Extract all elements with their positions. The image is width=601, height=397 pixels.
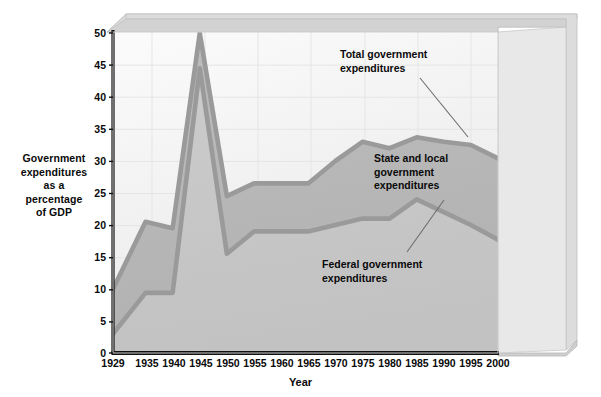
y-tick-label-50: 50 [80,27,106,39]
y-tick-label-45: 45 [80,59,106,71]
y-tick-label-20: 20 [80,219,106,231]
x-axis-title: Year [0,376,601,388]
y-tick-label-30: 30 [80,155,106,167]
y-tick-label-25: 25 [80,187,106,199]
y-axis-title-line-5: of GDP [2,206,106,220]
x-tick-label-2000: 2000 [481,357,515,369]
y-axis-title-line-2: expenditures [2,166,106,180]
x-tick-label-1929: 1929 [96,357,130,369]
y-tick-label-5: 5 [80,315,106,327]
y-tick-label-10: 10 [80,283,106,295]
annotation-federal-government: Federal government expenditures [322,258,422,285]
annotation-total-government: Total government expenditures [340,48,427,75]
y-tick-label-40: 40 [80,91,106,103]
y-tick-label-35: 35 [80,123,106,135]
chart-figure: Government expenditures as a percentage … [0,0,601,397]
annotation-state-local: State and local government expenditures [374,152,448,193]
y-tick-label-15: 15 [80,251,106,263]
